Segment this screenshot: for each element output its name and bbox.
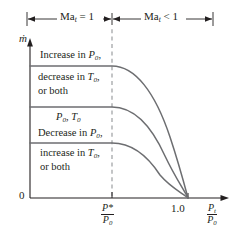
x-critical-ratio-label: P* P0 — [101, 203, 114, 226]
regime-right-relation: < 1 — [164, 10, 178, 22]
regime-right-subscript: t — [159, 15, 161, 24]
arrow-left-outward-icon — [28, 16, 35, 22]
x-axis-label: Pt P0 — [207, 203, 217, 226]
annotation-decrease-p0: Decrease in P0, — [38, 128, 103, 139]
chart-canvas — [0, 0, 236, 246]
x-axis-arrowhead-icon — [221, 195, 230, 201]
regime-right-symbol: Ma — [144, 10, 159, 22]
arrow-right-outward-icon — [205, 16, 212, 22]
x-tick-one-label: 1.0 — [171, 203, 185, 214]
arrow-left-inward-icon — [104, 16, 111, 22]
annotation-increase-p0: Increase in P0, — [40, 50, 101, 61]
annotation-decrease-t0: decrease in T0, — [38, 72, 100, 83]
regime-left-subscript: t — [75, 15, 77, 24]
regime-left-symbol: Ma — [60, 10, 75, 22]
mass-flow-rate-chart: Mat = 1 Mat < 1 ṁ 0 1.0 P* P0 Pt P0 Incr… — [0, 0, 236, 246]
annotation-baseline-p0-t0: P0, T0 — [56, 112, 81, 123]
annotation-increase-t0: increase in T0, — [40, 148, 100, 159]
annotation-lower-or-both: or both — [40, 162, 70, 173]
y-axis-label: ṁ — [19, 33, 27, 44]
regime-label-subsonic: Mat < 1 — [144, 11, 178, 22]
annotation-upper-or-both: or both — [38, 86, 68, 97]
critical-ratio-denominator: P0 — [101, 215, 114, 226]
regime-label-sonic: Mat = 1 — [60, 11, 94, 22]
regime-left-relation: = 1 — [80, 10, 94, 22]
origin-tick-label: 0 — [19, 190, 25, 201]
arrow-right-inward-icon — [113, 16, 120, 22]
x-axis-denominator: P0 — [207, 215, 217, 226]
y-axis-arrowhead-icon — [27, 38, 33, 47]
